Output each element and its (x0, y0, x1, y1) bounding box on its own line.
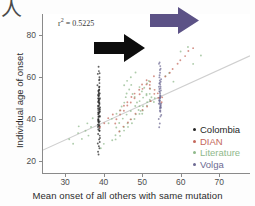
legend-item-dian: DIAN (193, 136, 240, 148)
y-tick-mark (39, 77, 42, 78)
legend-item-colombia: Colombia (193, 124, 240, 136)
legend-item-volga: Volga (193, 159, 240, 171)
x-tick-label: 40 (92, 177, 116, 187)
x-tick-mark (142, 174, 143, 177)
x-tick-label: 30 (53, 177, 77, 187)
legend-marker-icon (193, 163, 196, 166)
x-axis-title: Mean onset of all others with same mutat… (0, 190, 255, 201)
purple-arrow-icon (150, 6, 200, 35)
series-volga (158, 62, 162, 129)
y-tick-mark (39, 119, 42, 120)
r-squared-annotation: r2 = 0.5225 (58, 17, 94, 28)
y-tick-mark (39, 161, 42, 162)
black-arrow-icon (94, 33, 146, 63)
x-tick-mark (219, 174, 220, 177)
legend-marker-icon (193, 128, 196, 131)
r-squared-value: = 0.5225 (64, 19, 95, 28)
legend-item-literature: Literature (193, 147, 240, 159)
legend-label: DIAN (200, 136, 223, 148)
x-tick-mark (181, 174, 182, 177)
x-tick-label: 50 (130, 177, 154, 187)
y-tick-mark (39, 35, 42, 36)
series-colombia (97, 66, 102, 156)
legend-label: Colombia (200, 124, 240, 136)
scatter-plot-figure: 人 20406080 3040506070 Individual age of … (0, 0, 255, 206)
y-axis-title: Individual age of onset (14, 26, 25, 176)
x-tick-mark (65, 174, 66, 177)
x-tick-mark (104, 174, 105, 177)
legend-label: Volga (200, 159, 224, 171)
x-tick-label: 70 (207, 177, 231, 187)
legend: ColombiaDIANLiteratureVolga (193, 124, 240, 170)
cropped-glyph-artifact: 人 (1, 0, 22, 19)
legend-label: Literature (200, 147, 240, 159)
legend-marker-icon (193, 151, 196, 154)
x-tick-label: 60 (169, 177, 193, 187)
legend-marker-icon (193, 140, 196, 143)
